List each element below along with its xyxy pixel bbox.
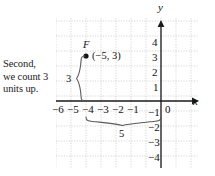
point-name-F: F: [83, 39, 89, 50]
y-axis-name: y: [158, 1, 163, 13]
y-tick-1: 1: [153, 82, 159, 93]
vertical-brace-label: 3: [66, 73, 71, 84]
caption-line-3: units up.: [3, 83, 55, 96]
caption-text: Second, we count 3 units up.: [3, 58, 55, 96]
point-coordinate-label: (−5, 3): [92, 50, 121, 61]
x-axis-name: x: [193, 95, 198, 107]
figure-root: Second, we count 3 units up.: [0, 0, 215, 176]
coordinate-plane: −6 −5 −4 −3 −2 −1 0 4 3 2 1 −1 −2 −3 −4 …: [56, 18, 199, 168]
y-tick--3: −3: [148, 137, 160, 148]
y-tick-2: 2: [152, 67, 158, 78]
caption-line-1: Second,: [3, 58, 55, 71]
y-tick-4: 4: [152, 37, 158, 48]
y-tick-3: 3: [152, 52, 158, 63]
y-tick--2: −2: [148, 122, 160, 133]
horizontal-brace-label: 5: [119, 128, 124, 139]
caption-line-2: we count 3: [3, 71, 55, 84]
y-axis-tick-labels: 4 3 2 1 −1 −2 −3 −4: [56, 18, 199, 168]
y-tick--1: −1: [148, 107, 160, 118]
y-tick--4: −4: [148, 152, 160, 163]
